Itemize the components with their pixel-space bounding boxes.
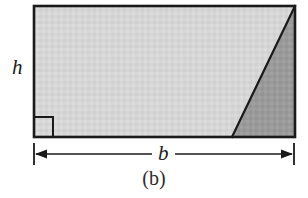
arrow-right-icon (281, 150, 293, 159)
height-label: h (12, 57, 23, 78)
base-label: b (152, 143, 175, 164)
arrow-left-icon (35, 150, 47, 159)
figure-caption: (b) (0, 168, 308, 188)
figure-container: h b (b) (0, 0, 308, 198)
